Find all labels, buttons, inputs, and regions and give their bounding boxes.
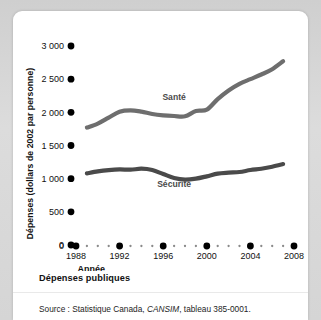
series-label-sante: Santé — [162, 92, 186, 102]
y-axis-title: Dépenses (dollars de 2002 par personne) — [25, 68, 35, 240]
chart-title: Dépenses publiques — [39, 273, 130, 283]
x-tick-dot-minor — [108, 245, 110, 247]
x-tick-dot-minor — [238, 245, 240, 247]
y-axis: 05001 0001 5002 0002 5003 000 — [41, 41, 74, 250]
series-line-securite — [87, 164, 283, 180]
x-tick-label: 1992 — [110, 251, 130, 261]
source-suffix: , tableau 385-0001. — [179, 304, 251, 314]
x-tick-dot-minor — [140, 245, 142, 247]
x-axis-title: Année — [78, 264, 106, 271]
y-tick-label: 1 000 — [41, 174, 64, 184]
source-publication: CANSIM — [147, 304, 179, 314]
y-tick-label: 3 000 — [41, 41, 64, 51]
x-tick-dot-minor — [173, 245, 175, 247]
x-tick-dot-major — [160, 243, 167, 250]
x-tick-dot-major — [203, 243, 210, 250]
origin-zero-label: 0 — [59, 241, 64, 251]
y-tick-dot — [68, 175, 75, 182]
x-tick-dot-major — [247, 243, 254, 250]
chart-plot-area: 05001 0001 5002 0002 5003 000Dépenses (d… — [13, 11, 308, 271]
y-tick-label: 2 000 — [41, 108, 64, 118]
y-tick-dot — [68, 208, 75, 215]
x-tick-dot-minor — [151, 245, 153, 247]
x-tick-dot-major — [116, 243, 123, 250]
y-tick-dot — [68, 43, 75, 50]
series-label-securite: Sécurité — [157, 179, 191, 189]
x-axis: 198819921996200020042008 — [66, 243, 304, 261]
x-tick-dot-minor — [97, 245, 99, 247]
y-tick-dot — [68, 76, 75, 83]
figure-card: 05001 0001 5002 0002 5003 000Dépenses (d… — [13, 11, 308, 320]
x-tick-dot-minor — [195, 245, 197, 247]
line-chart: 05001 0001 5002 0002 5003 000Dépenses (d… — [13, 11, 308, 271]
x-tick-dot-minor — [227, 245, 229, 247]
source-prefix: Source : Statistique Canada, — [39, 304, 147, 314]
x-tick-dot-major — [73, 243, 80, 250]
x-tick-label: 2000 — [197, 251, 217, 261]
x-tick-label: 1988 — [66, 251, 86, 261]
x-tick-label: 1996 — [153, 251, 173, 261]
x-tick-dot-minor — [217, 245, 219, 247]
x-tick-dot-minor — [184, 245, 186, 247]
x-tick-dot-minor — [260, 245, 262, 247]
x-tick-dot-minor — [271, 245, 273, 247]
y-tick-label: 500 — [49, 207, 64, 217]
divider — [13, 292, 308, 293]
x-tick-dot-major — [291, 243, 298, 250]
x-tick-dot-minor — [129, 245, 131, 247]
y-tick-dot — [68, 109, 75, 116]
source-note: Source : Statistique Canada, CANSIM, tab… — [39, 304, 301, 314]
x-tick-dot-minor — [86, 245, 88, 247]
screenshot-stage: 05001 0001 5002 0002 5003 000Dépenses (d… — [0, 0, 321, 320]
y-tick-label: 1 500 — [41, 141, 64, 151]
x-tick-dot-minor — [282, 245, 284, 247]
x-tick-label: 2008 — [284, 251, 304, 261]
x-tick-label: 2004 — [240, 251, 260, 261]
y-tick-label: 2 500 — [41, 74, 64, 84]
y-tick-dot — [68, 142, 75, 149]
